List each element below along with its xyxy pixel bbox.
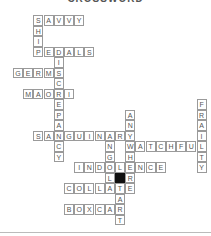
letter-cell[interactable]: T [115,215,125,226]
letter-cell[interactable]: N [135,162,145,173]
letter-cell[interactable]: N [95,131,105,142]
letter-cell[interactable]: G [64,131,74,142]
letter-cell[interactable]: E [125,183,135,194]
letter-cell[interactable]: E [156,162,166,173]
letter-cell[interactable]: L [84,183,94,194]
letter-cell[interactable]: I [54,57,64,68]
letter-cell[interactable]: L [74,47,84,58]
letter-cell[interactable]: U [186,141,196,152]
letter-cell[interactable]: E [23,68,33,79]
letter-cell[interactable]: G [105,152,115,163]
letter-cell[interactable]: A [197,120,207,131]
letter-cell[interactable]: F [197,99,207,110]
letter-cell[interactable]: I [84,131,94,142]
letter-cell[interactable]: S [33,131,43,142]
letter-cell[interactable]: S [54,68,64,79]
letter-cell[interactable]: C [54,141,64,152]
letter-cell[interactable]: F [176,141,186,152]
letter-cell[interactable]: R [115,204,125,215]
letter-cell[interactable]: S [33,15,43,26]
letter-cell[interactable]: H [166,141,176,152]
letter-cell[interactable]: X [84,204,94,215]
letter-cell[interactable]: O [74,204,84,215]
letter-cell[interactable]: A [44,15,54,26]
letter-cell[interactable]: E [125,162,135,173]
letter-cell[interactable]: O [44,89,54,100]
letter-cell[interactable]: Y [125,131,135,142]
letter-cell[interactable]: E [54,99,64,110]
divider [0,232,211,233]
letter-cell[interactable]: R [125,173,135,184]
letter-cell[interactable]: C [95,204,105,215]
letter-cell[interactable]: V [64,15,74,26]
letter-cell[interactable]: T [146,141,156,152]
letter-cell[interactable]: A [115,194,125,205]
letter-cell[interactable]: C [146,162,156,173]
letter-cell[interactable]: R [33,68,43,79]
letter-cell[interactable]: I [74,162,84,173]
letter-cell[interactable]: U [74,131,84,142]
letter-cell[interactable]: N [125,120,135,131]
letter-cell[interactable]: G [13,68,23,79]
letter-cell[interactable]: S [84,47,94,58]
letter-cell[interactable]: A [105,183,115,194]
letter-cell[interactable]: A [105,204,115,215]
letter-cell[interactable]: M [44,68,54,79]
letter-cell[interactable]: L [197,141,207,152]
letter-cell[interactable]: D [54,47,64,58]
letter-cell[interactable]: R [197,110,207,121]
letter-cell[interactable]: R [115,131,125,142]
letter-cell[interactable]: C [64,183,74,194]
letter-cell[interactable]: R [54,89,64,100]
letter-cell[interactable]: A [125,110,135,121]
letter-cell[interactable]: B [64,204,74,215]
letter-cell[interactable]: W [125,141,135,152]
letter-cell[interactable]: A [105,131,115,142]
letter-cell[interactable]: I [64,89,74,100]
letter-cell[interactable]: I [33,36,43,47]
letter-cell[interactable]: O [74,183,84,194]
letter-cell[interactable]: A [54,120,64,131]
letter-cell[interactable]: N [105,141,115,152]
block-cell[interactable] [115,173,125,184]
letter-cell[interactable]: A [135,141,145,152]
letter-cell[interactable]: L [115,162,125,173]
letter-cell[interactable]: D [95,162,105,173]
letter-cell[interactable]: Y [54,152,64,163]
letter-cell[interactable]: E [44,47,54,58]
letter-cell[interactable]: Y [197,162,207,173]
letter-cell[interactable]: T [115,183,125,194]
letter-cell[interactable]: I [197,131,207,142]
letter-cell[interactable]: P [33,47,43,58]
letter-cell[interactable]: O [105,162,115,173]
letter-cell[interactable]: Y [74,15,84,26]
letter-cell[interactable]: L [95,183,105,194]
letter-cell[interactable]: L [105,173,115,184]
letter-cell[interactable]: C [54,78,64,89]
letter-cell[interactable]: A [33,89,43,100]
letter-cell[interactable]: C [156,141,166,152]
letter-cell[interactable]: T [197,152,207,163]
letter-cell[interactable]: N [84,162,94,173]
letter-cell[interactable]: P [54,110,64,121]
letter-cell[interactable]: A [64,47,74,58]
letter-cell[interactable]: H [125,152,135,163]
crossword-grid: SAVVYHIPEDALSISCREPANCYGERMMAOIFRAILTYAN… [0,0,211,230]
letter-cell[interactable]: V [54,15,64,26]
letter-cell[interactable]: M [23,89,33,100]
letter-cell[interactable]: H [33,26,43,37]
letter-cell[interactable]: N [54,131,64,142]
letter-cell[interactable]: A [44,131,54,142]
